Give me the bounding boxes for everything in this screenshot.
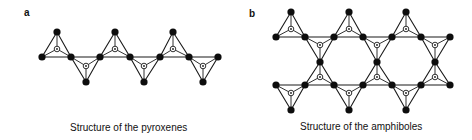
tetrahedron-up: [334, 12, 363, 37]
tetrahedron-up: [100, 32, 130, 57]
oxygen-atom-icon: [388, 81, 395, 88]
tetrahedron-up: [276, 12, 305, 37]
tetrahedron-outline: [305, 37, 334, 62]
oxygen-atom-icon: [446, 81, 453, 88]
oxygen-atom-icon: [53, 28, 60, 35]
oxygen-atom-icon: [345, 8, 352, 15]
oxygen-atom-icon: [272, 81, 279, 88]
oxygen-atom-icon: [446, 33, 453, 40]
tetrahedron-down: [392, 85, 421, 110]
silicon-atom-icon: [374, 42, 380, 48]
tetrahedron-outline: [334, 12, 363, 37]
oxygen-atom-icon: [431, 58, 438, 65]
oxygen-atom-icon: [287, 106, 294, 113]
silicon-atom-icon: [374, 74, 380, 80]
oxygen-atom-icon: [330, 81, 337, 88]
oxygen-atom-icon: [38, 53, 45, 60]
tetrahedron-outline: [71, 57, 100, 82]
silicon-atom-icon: [54, 46, 60, 52]
oxygen-atom-icon: [330, 33, 337, 40]
silicon-atom-icon: [432, 74, 438, 80]
tetrahedron-outline: [189, 57, 218, 82]
oxygen-atom-icon: [156, 53, 163, 60]
oxygen-atom-icon: [169, 28, 176, 35]
tetrahedron-outline: [334, 85, 363, 110]
oxygen-atom-icon: [388, 33, 395, 40]
tetrahedron-down: [421, 37, 450, 62]
silicon-atom-icon: [317, 42, 323, 48]
tetrahedron-down: [71, 57, 100, 82]
oxygen-atom-icon: [199, 78, 206, 85]
oxygen-atom-icon: [111, 28, 118, 35]
tetrahedron-outline: [392, 12, 421, 37]
oxygen-atom-icon: [140, 78, 147, 85]
silicon-atom-icon: [112, 46, 118, 52]
tetrahedron-down: [276, 85, 305, 110]
oxygen-atom-icon: [345, 106, 352, 113]
silicon-atom-icon: [200, 63, 206, 69]
oxygen-atom-icon: [301, 81, 308, 88]
silicon-atom-icon: [346, 26, 352, 32]
tetrahedron-outline: [276, 85, 305, 110]
tetrahedron-outline: [42, 32, 71, 57]
oxygen-atom-icon: [287, 8, 294, 15]
oxygen-atom-icon: [359, 33, 366, 40]
silicate-chain-diagram: [0, 0, 472, 140]
silicon-atom-icon: [141, 63, 147, 69]
oxygen-atom-icon: [96, 53, 103, 60]
tetrahedron-outline: [160, 32, 189, 57]
oxygen-atom-icon: [316, 58, 323, 65]
oxygen-atom-icon: [301, 33, 308, 40]
oxygen-atom-icon: [126, 53, 133, 60]
caption-pyroxenes: Structure of the pyroxenes: [70, 122, 187, 134]
oxygen-atoms: [272, 8, 453, 113]
tetrahedron-outline: [276, 12, 305, 37]
tetrahedron-outline: [363, 37, 392, 62]
tetrahedron-up: [42, 32, 71, 57]
tetrahedron-down: [189, 57, 218, 82]
bond-lines: [276, 12, 450, 110]
tetrahedron-down: [305, 37, 334, 62]
tetrahedron-outline: [421, 37, 450, 62]
silicon-atom-icon: [317, 74, 323, 80]
tetrahedron-down: [334, 85, 363, 110]
oxygen-atom-icon: [417, 81, 424, 88]
oxygen-atom-icon: [214, 53, 221, 60]
silicon-atom-icon: [288, 90, 294, 96]
silicon-atom-icon: [83, 63, 89, 69]
tetrahedron-outline: [392, 85, 421, 110]
oxygen-atom-icon: [272, 33, 279, 40]
silicon-atom-icon: [288, 26, 294, 32]
tetrahedron-outline: [130, 57, 160, 82]
silicon-atom-icon: [403, 90, 409, 96]
oxygen-atom-icon: [417, 33, 424, 40]
silicon-atom-icon: [403, 26, 409, 32]
oxygen-atom-icon: [67, 53, 74, 60]
amphibole-double-chain: [272, 8, 453, 113]
silicon-atom-icon: [346, 90, 352, 96]
oxygen-atom-icon: [402, 106, 409, 113]
oxygen-atom-icon: [185, 53, 192, 60]
tetrahedron-down: [363, 37, 392, 62]
tetrahedron-up: [392, 12, 421, 37]
oxygen-atom-icon: [373, 58, 380, 65]
silicon-atom-icon: [170, 46, 176, 52]
tetrahedron-down: [130, 57, 160, 82]
oxygen-atom-icon: [359, 81, 366, 88]
caption-amphiboles: Structure of the amphiboles: [300, 121, 422, 133]
oxygen-atom-icon: [402, 8, 409, 15]
pyroxene-single-chain: [38, 28, 221, 85]
silicon-atom-icon: [432, 42, 438, 48]
tetrahedron-up: [160, 32, 189, 57]
oxygen-atom-icon: [82, 78, 89, 85]
